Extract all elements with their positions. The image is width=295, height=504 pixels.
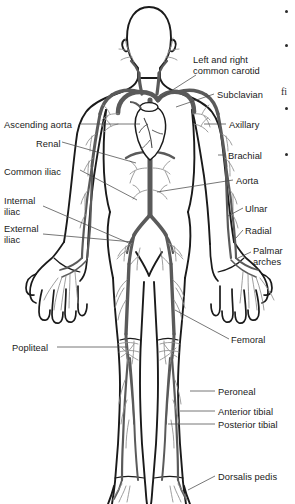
label-external-iliac: External iliac (4, 224, 39, 246)
leg-inner-right (151, 282, 158, 504)
label-axillary: Axillary (229, 120, 259, 131)
label-brachial: Brachial (228, 151, 262, 162)
label-palmar-arches: Palmar arches (253, 246, 283, 268)
leg-inner-left (140, 282, 147, 504)
label-dorsalis-pedis: Dorsalis pedis (218, 472, 277, 483)
label-anterior-tibial: Anterior tibial (218, 407, 273, 418)
anterior-tibial-right-artery (172, 358, 178, 480)
leg-outer-left (112, 278, 120, 504)
hand-left-finger-1 (39, 290, 50, 320)
hand-right-finger-4 (211, 286, 220, 316)
leader-aorta (157, 180, 233, 192)
label-ulnar: Ulnar (245, 204, 267, 215)
label-ascending-aorta: Ascending aorta (4, 120, 72, 131)
crotch-outline (136, 252, 162, 276)
label-posterior-tibial: Posterior tibial (218, 420, 278, 431)
abdominal-branch-right-1 (153, 161, 170, 183)
torso-outline-right (160, 78, 234, 242)
label-popliteal: Popliteal (12, 343, 48, 354)
aortic-root (140, 103, 158, 112)
trunk-side-right (188, 110, 194, 212)
abdominal-branch-left-1 (130, 161, 147, 183)
leader-femoral (175, 310, 229, 339)
minor-vessels-group (44, 38, 274, 502)
torso-outline (64, 78, 138, 242)
body-outline-group (64, 7, 234, 504)
head-outline (127, 7, 171, 78)
label-femoral: Femoral (231, 335, 265, 346)
carotid-right-artery (157, 73, 159, 94)
aortic-arch-right (158, 92, 194, 112)
abdominal-branch-left-2 (133, 185, 147, 199)
anterior-tibial-left-artery (122, 358, 128, 480)
femoral-left-artery (126, 264, 129, 334)
foot-arch-left (113, 484, 130, 502)
arm-inner-right (192, 110, 210, 244)
pelvic-midline-right (160, 248, 169, 270)
heart-group (130, 102, 166, 160)
leader-internal-iliac (43, 206, 131, 244)
hand-right-finger-3 (222, 289, 233, 322)
label-radial: Radial (245, 226, 272, 237)
knee-crease-left (120, 339, 140, 341)
label-internal-iliac: Internal iliac (4, 196, 35, 218)
hip-right-outline (185, 212, 190, 278)
label-subclavian: Subclavian (217, 90, 263, 101)
digital-arteries-left (44, 272, 78, 310)
hand-right-finger-1 (248, 290, 259, 320)
common-iliac-right-artery (150, 215, 166, 235)
thoracic-branch-left-2 (104, 118, 118, 132)
hip-left-outline (108, 212, 113, 278)
label-renal: Renal (36, 139, 61, 150)
ankle-left (115, 477, 144, 479)
leader-dorsalis-pedis (188, 476, 215, 490)
femoral-right-artery (171, 264, 174, 334)
label-common-carotid: Left and right common carotid (193, 55, 260, 77)
label-common-iliac: Common iliac (4, 167, 61, 178)
label-aorta: Aorta (236, 176, 258, 187)
abdominal-branch-right-2 (153, 185, 167, 199)
leader-radial (236, 230, 243, 238)
hand-left-finger-4 (78, 286, 87, 316)
hand-left-finger-3 (65, 289, 76, 322)
common-iliac-left-artery (134, 215, 150, 235)
hand-right-palm (210, 244, 218, 281)
artery-diagram-figure: Ascending aorta Renal Common iliac Inter… (0, 0, 295, 504)
pulmonary-trunk (130, 102, 141, 108)
trunk-side-left (104, 110, 110, 212)
label-peroneal: Peroneal (218, 387, 256, 398)
